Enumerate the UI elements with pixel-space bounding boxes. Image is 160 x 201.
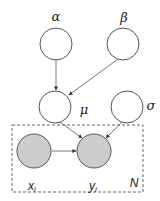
edge-mu-y [60, 122, 82, 138]
edge-sigma-y [106, 122, 122, 138]
label-y-subscript: i [95, 185, 97, 194]
label-x-subscript: i [34, 185, 36, 194]
label-beta: β [119, 10, 128, 25]
node-alpha [40, 28, 72, 60]
label-mu: μ [80, 102, 88, 117]
node-y-i [77, 134, 111, 168]
label-x-i: xi [27, 179, 36, 194]
label-sigma: σ [147, 98, 157, 113]
edge-beta-mu [69, 59, 118, 95]
node-x-i [17, 134, 51, 168]
node-sigma [111, 91, 143, 123]
label-y-i: yi [88, 179, 97, 194]
label-alpha: α [52, 9, 61, 24]
plate-label-n: N [130, 176, 139, 190]
node-mu [39, 91, 71, 123]
graphical-model-diagram: α β μ σ xi yi N [0, 0, 160, 201]
node-beta [107, 28, 139, 60]
